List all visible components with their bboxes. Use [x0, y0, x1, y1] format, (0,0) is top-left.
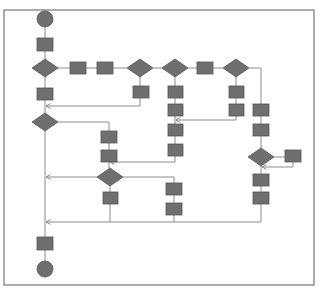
process-node[interactable]: [168, 124, 183, 136]
rect-shape: [37, 237, 53, 250]
decision-node[interactable]: [162, 59, 188, 77]
process-node[interactable]: [168, 104, 183, 116]
rect-shape: [97, 62, 113, 74]
diamond-shape: [127, 59, 153, 77]
rect-shape: [253, 104, 269, 116]
decision-node[interactable]: [32, 113, 58, 131]
process-node[interactable]: [37, 38, 53, 51]
process-node[interactable]: [37, 237, 53, 250]
decision-node[interactable]: [223, 59, 249, 77]
process-node[interactable]: [133, 86, 149, 98]
process-node[interactable]: [103, 192, 118, 204]
connector-edge: [249, 68, 261, 104]
process-node[interactable]: [166, 203, 182, 215]
process-node[interactable]: [168, 86, 183, 98]
process-node[interactable]: [37, 88, 53, 100]
rect-shape: [70, 62, 86, 74]
decision-node[interactable]: [127, 59, 153, 77]
rect-shape: [253, 192, 269, 204]
diamond-shape: [248, 148, 274, 166]
diamond-shape: [97, 168, 123, 186]
decision-node[interactable]: [32, 59, 58, 77]
process-node[interactable]: [168, 144, 183, 156]
rect-shape: [229, 86, 244, 98]
rect-shape: [197, 62, 213, 74]
process-node[interactable]: [253, 174, 269, 186]
rect-shape: [168, 144, 183, 156]
connector-edge: [58, 122, 109, 131]
process-node[interactable]: [253, 104, 269, 116]
process-node[interactable]: [229, 104, 244, 116]
rect-shape: [166, 203, 182, 215]
connector-edge: [110, 156, 175, 162]
diamond-shape: [32, 113, 58, 131]
process-node[interactable]: [166, 183, 182, 195]
diamond-shape: [223, 59, 249, 77]
rect-shape: [253, 124, 269, 136]
rect-shape: [285, 150, 301, 162]
process-node[interactable]: [101, 150, 117, 162]
flowchart-canvas: [0, 0, 319, 294]
decision-node[interactable]: [248, 148, 274, 166]
rect-shape: [253, 174, 269, 186]
connector-edge: [123, 177, 174, 183]
process-node[interactable]: [229, 86, 244, 98]
rect-shape: [168, 86, 183, 98]
rect-shape: [101, 131, 117, 143]
process-node[interactable]: [101, 131, 117, 143]
rect-shape: [229, 104, 244, 116]
rect-shape: [166, 183, 182, 195]
process-node[interactable]: [70, 62, 86, 74]
circle-shape: [37, 11, 53, 27]
decision-node[interactable]: [97, 168, 123, 186]
process-node[interactable]: [197, 62, 213, 74]
process-node[interactable]: [97, 62, 113, 74]
connector-edge: [110, 204, 261, 222]
rect-shape: [133, 86, 149, 98]
process-node[interactable]: [253, 192, 269, 204]
circle-shape: [37, 261, 53, 277]
rect-shape: [37, 88, 53, 100]
end-node[interactable]: [37, 261, 53, 277]
process-node[interactable]: [285, 150, 301, 162]
rect-shape: [168, 104, 183, 116]
connector-edge: [46, 98, 140, 106]
connector-edge: [176, 116, 236, 120]
rect-shape: [37, 38, 53, 51]
rect-shape: [168, 124, 183, 136]
rect-shape: [101, 150, 117, 162]
diamond-shape: [32, 59, 58, 77]
connector-edge: [262, 162, 293, 167]
connector-edge: [46, 204, 110, 222]
rect-shape: [103, 192, 118, 204]
start-node[interactable]: [37, 11, 53, 27]
diamond-shape: [162, 59, 188, 77]
process-node[interactable]: [253, 124, 269, 136]
